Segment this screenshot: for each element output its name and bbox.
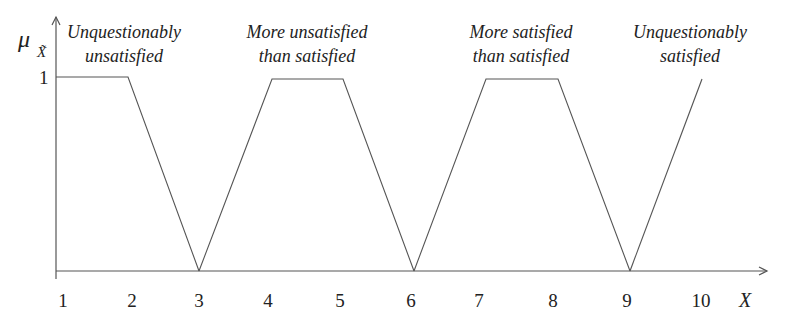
membership-functions xyxy=(56,77,702,271)
region-label-more-satisfied-line2: than satisfied xyxy=(473,46,571,66)
region-label-more-unsatisfied-line1: More unsatisfied xyxy=(246,22,369,42)
x-tick-9: 9 xyxy=(622,290,632,311)
x-tick-5: 5 xyxy=(335,290,345,311)
x-tick-1: 1 xyxy=(58,290,68,311)
x-tick-4: 4 xyxy=(263,290,273,311)
region-label-unquestionably-satisfied-line1: Unquestionably xyxy=(633,22,747,42)
mf-unquestionably-unsatisfied xyxy=(56,77,199,271)
x-tick-2: 2 xyxy=(127,290,137,311)
x-tick-6: 6 xyxy=(406,290,416,311)
region-label-unquestionably-unsatisfied-line1: Unquestionably xyxy=(67,22,181,42)
x-axis-label: X xyxy=(738,289,752,311)
x-tick-7: 7 xyxy=(474,290,484,311)
region-label-unquestionably-unsatisfied-line2: unsatisfied xyxy=(85,46,164,66)
region-label-more-satisfied-line1: More satisfied xyxy=(469,22,574,42)
mf-unquestionably-satisfied xyxy=(630,79,702,271)
mf-more-satisfied xyxy=(414,79,630,271)
x-tick-labels: 1 2 3 4 5 6 7 8 9 10 xyxy=(58,290,710,311)
y-axis-subscript: X̃ xyxy=(36,44,47,60)
mf-more-unsatisfied xyxy=(199,79,414,271)
x-tick-10: 10 xyxy=(692,290,711,311)
region-label-more-unsatisfied-line2: than satisfied xyxy=(259,46,357,66)
membership-function-chart: μ X̃ 1 Unquestionably unsatisfied More u… xyxy=(0,0,791,328)
y-axis-label: μ xyxy=(17,26,30,52)
x-tick-8: 8 xyxy=(548,290,558,311)
region-label-unquestionably-satisfied-line2: satisfied xyxy=(660,46,721,66)
x-tick-3: 3 xyxy=(194,290,204,311)
y-tick-1: 1 xyxy=(39,67,49,88)
